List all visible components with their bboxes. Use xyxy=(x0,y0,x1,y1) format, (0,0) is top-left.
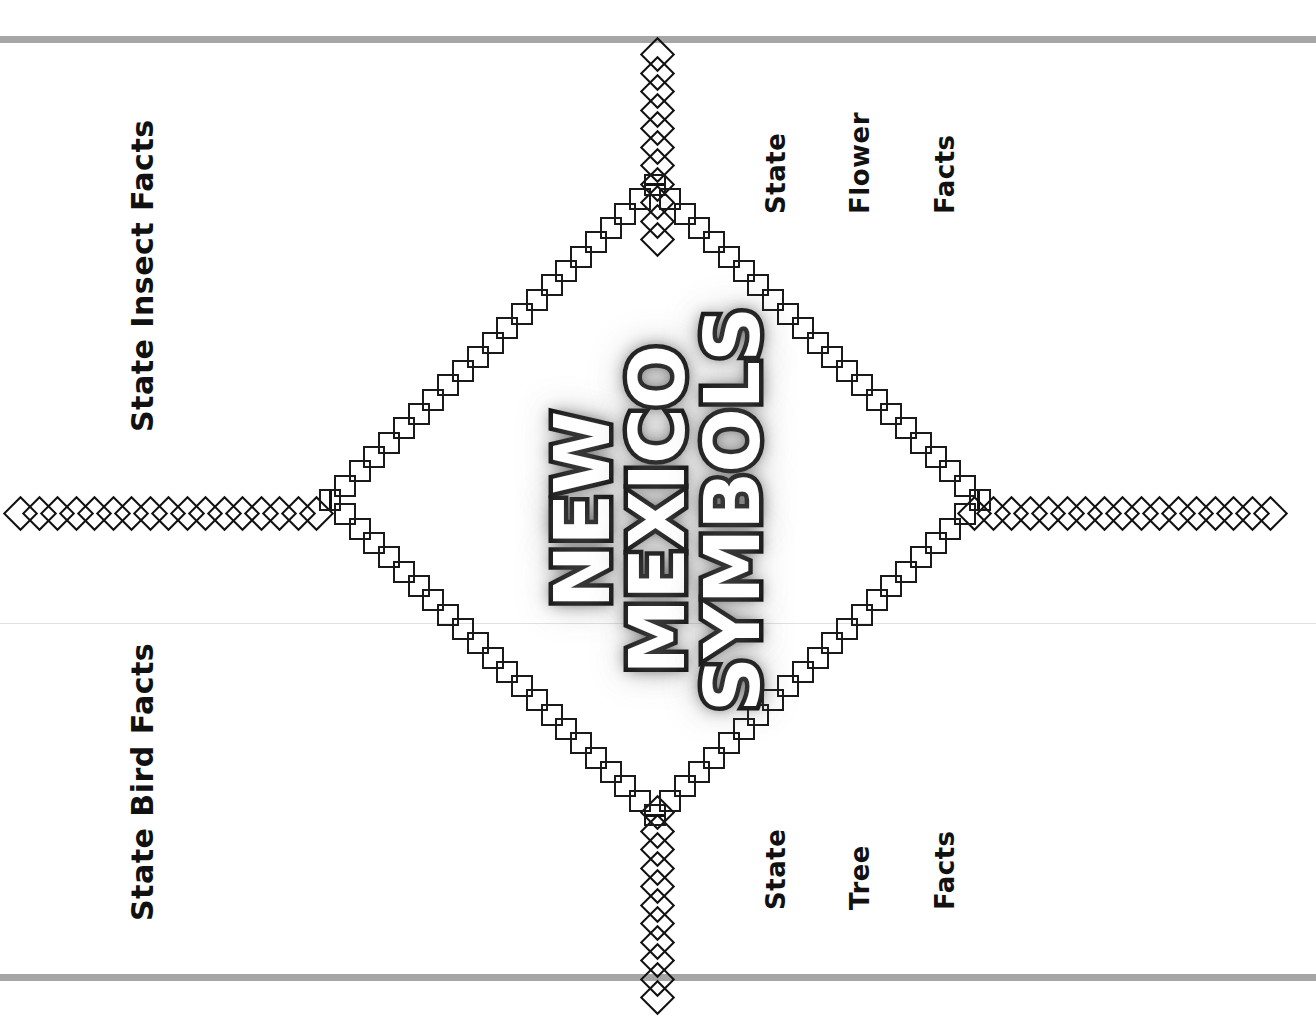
vertex-tick-3 xyxy=(329,491,332,509)
label-line: Flower xyxy=(846,112,874,214)
vertex-tick-0 xyxy=(646,183,664,186)
vertex-tick-1 xyxy=(977,491,980,509)
title-line-2: MEXICO xyxy=(620,300,695,720)
diamond-chain-left xyxy=(8,501,323,526)
poster-title: NEW MEXICO SYMBOLS xyxy=(545,300,771,720)
label-line: State Bird Facts xyxy=(127,643,159,921)
link-state-insect-facts[interactable]: State Insect Facts xyxy=(62,119,224,432)
link-state-bird-facts[interactable]: State Bird Facts xyxy=(62,643,224,921)
link-state-tree-facts[interactable]: State Tree Facts xyxy=(706,829,1015,910)
title-line-1: NEW xyxy=(545,300,620,720)
label-line: State xyxy=(762,112,790,214)
vertex-tick-2 xyxy=(646,814,664,817)
square-glyph xyxy=(629,188,651,210)
link-state-flower-facts[interactable]: State Flower Facts xyxy=(706,112,1015,214)
diamond-chain-right xyxy=(962,501,1277,526)
title-line-3: SYMBOLS xyxy=(696,300,771,720)
label-line: Tree xyxy=(846,829,874,910)
label-line: State xyxy=(762,829,790,910)
diamond-chain-bottom xyxy=(645,800,670,1004)
label-line: State Insect Facts xyxy=(127,119,159,432)
poster-canvas: State Insect Facts State Bird Facts Stat… xyxy=(0,0,1316,1022)
label-line: Facts xyxy=(931,829,959,910)
label-line: Facts xyxy=(931,112,959,214)
